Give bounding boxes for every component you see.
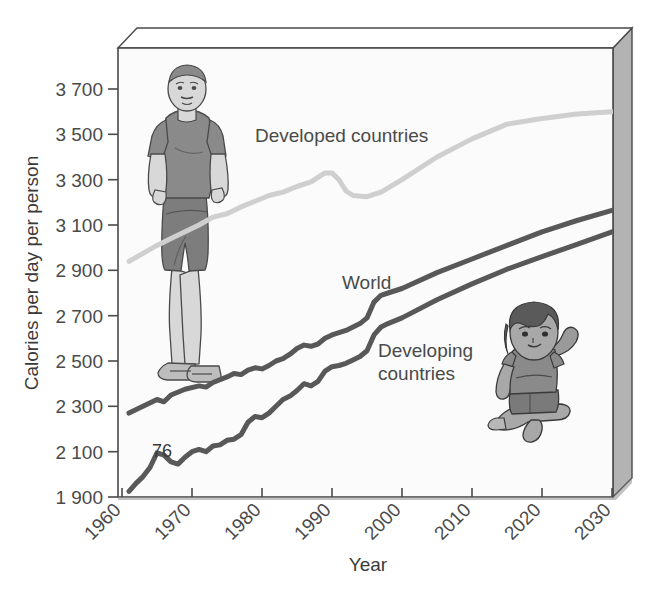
y-tick-label: 2 100 <box>55 442 103 463</box>
x-axis-title: Year <box>349 554 388 575</box>
x-tick-label: 2030 <box>570 499 615 544</box>
x-tick-label: 1990 <box>290 499 335 544</box>
y-tick-label: 3 100 <box>55 215 103 236</box>
series-label-world: World <box>342 272 391 293</box>
series-label-developed-countries: Developed countries <box>255 125 428 146</box>
y-tick-label: 2 900 <box>55 260 103 281</box>
y-tick-label: 2 300 <box>55 396 103 417</box>
y-tick-label: 3 700 <box>55 79 103 100</box>
frame-top-bevel <box>118 28 632 48</box>
frame-right-panel <box>613 28 632 497</box>
x-tick-label: 2010 <box>430 499 475 544</box>
y-tick-label: 3 500 <box>55 124 103 145</box>
y-tick-label: 1 900 <box>55 487 103 508</box>
chart-container: 3 700 3 500 3 300 3 100 2 900 2 700 2 50… <box>0 0 650 591</box>
y-tick-label: 2 700 <box>55 306 103 327</box>
series-label-developing-countries-line1: Developing <box>378 340 473 361</box>
annotation-76: 76 <box>152 441 172 461</box>
y-axis-title: Calories per day per person <box>21 156 42 390</box>
y-tick-label: 3 300 <box>55 170 103 191</box>
y-tick-label: 2 500 <box>55 351 103 372</box>
y-axis-tick-labels: 3 700 3 500 3 300 3 100 2 900 2 700 2 50… <box>55 79 103 508</box>
x-axis-tick-labels: 1960 1970 1980 1990 2000 2010 2020 2030 <box>80 499 615 544</box>
series-label-developing-countries-line2: countries <box>378 363 455 384</box>
calorie-intake-line-chart: 3 700 3 500 3 300 3 100 2 900 2 700 2 50… <box>0 0 650 591</box>
x-tick-label: 1980 <box>220 499 265 544</box>
x-tick-label: 2020 <box>500 499 545 544</box>
x-tick-label: 1970 <box>150 499 195 544</box>
y-axis <box>108 89 118 497</box>
x-tick-label: 2000 <box>360 499 405 544</box>
